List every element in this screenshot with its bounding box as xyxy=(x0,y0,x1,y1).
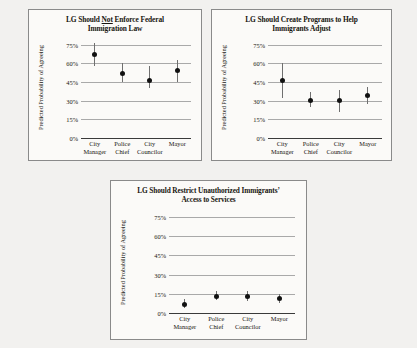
gridline xyxy=(81,138,191,139)
y-axis-tick-label: 30% xyxy=(154,271,166,278)
y-axis-tick-label: 45% xyxy=(66,79,78,86)
x-axis-tick-label: CityCouncilor xyxy=(326,140,352,156)
data-point-marker xyxy=(214,294,219,299)
data-point-marker xyxy=(147,78,152,83)
x-axis-tick-label: CityManager xyxy=(271,140,294,156)
y-axis-tick-label: 75% xyxy=(154,213,166,220)
plot-wrapper: Predicted Probability of Agreeing 0%15%3… xyxy=(29,10,201,160)
y-axis-tick-label: 75% xyxy=(66,41,78,48)
data-point-marker xyxy=(120,71,125,76)
y-axis-tick-label: 45% xyxy=(154,252,166,259)
y-axis-tick-label: 15% xyxy=(66,116,78,123)
y-axis-label: Predicted Probability of Agreeing xyxy=(119,221,126,305)
series-predicted-probability xyxy=(169,213,295,313)
y-axis-tick-label: 60% xyxy=(154,233,166,240)
data-point-marker xyxy=(245,294,250,299)
figure-three-panel-dotplot: LG Should Not Enforce Federal Immigratio… xyxy=(0,0,417,348)
x-axis-tick-label: CityManager xyxy=(173,315,196,331)
plot-wrapper: Predicted Probability of Agreeing 0%15%3… xyxy=(111,181,306,339)
data-point-marker xyxy=(337,98,342,103)
data-point-marker xyxy=(175,68,180,73)
data-point-marker xyxy=(365,93,370,98)
x-axis-tick-label: PoliceChief xyxy=(114,140,130,156)
gridline xyxy=(169,313,295,314)
y-axis-tick-label: 15% xyxy=(253,116,265,123)
x-axis-tick-label: Mayor xyxy=(169,140,186,148)
y-axis-tick-label: 0% xyxy=(256,135,265,142)
series-predicted-probability xyxy=(81,41,191,138)
y-axis-tick-label: 15% xyxy=(154,290,166,297)
data-point-marker xyxy=(92,52,97,57)
y-axis-label: Predicted Probability of Agreeing xyxy=(37,46,44,130)
data-point-marker xyxy=(308,98,313,103)
panel-not-enforce: LG Should Not Enforce Federal Immigratio… xyxy=(28,9,202,161)
gridline xyxy=(268,138,382,139)
confidence-interval-bar xyxy=(149,66,150,88)
y-axis-label: Predicted Probability of Agreeing xyxy=(220,46,227,130)
x-axis-tick-label: PoliceChief xyxy=(208,315,224,331)
data-point-marker xyxy=(182,302,187,307)
y-axis-tick-label: 75% xyxy=(253,41,265,48)
series-predicted-probability xyxy=(268,41,382,138)
data-point-marker xyxy=(277,296,282,301)
panel-create-programs: LG Should Create Programs to Help Immigr… xyxy=(211,9,392,161)
plot-area: 0%15%30%45%60%75%CityManagerPoliceChiefC… xyxy=(169,213,295,313)
y-axis-tick-label: 60% xyxy=(253,60,265,67)
x-axis-tick-label: CityManager xyxy=(83,140,106,156)
x-axis-tick-label: Mayor xyxy=(359,140,376,148)
x-axis-labels: CityManagerPoliceChiefCityCouncilorMayor xyxy=(268,140,382,160)
x-axis-tick-label: CityCouncilor xyxy=(235,315,261,331)
plot-wrapper: Predicted Probability of Agreeing 0%15%3… xyxy=(212,10,391,160)
x-axis-tick-label: CityCouncilor xyxy=(137,140,163,156)
x-axis-tick-label: Mayor xyxy=(271,315,288,323)
x-axis-tick-label: PoliceChief xyxy=(303,140,319,156)
y-axis-tick-label: 60% xyxy=(66,60,78,67)
y-axis-tick-label: 0% xyxy=(157,310,166,317)
y-axis-tick-label: 30% xyxy=(253,97,265,104)
plot-area: 0%15%30%45%60%75%CityManagerPoliceChiefC… xyxy=(268,41,382,138)
x-axis-labels: CityManagerPoliceChiefCityCouncilorMayor xyxy=(81,140,191,160)
panel-restrict-services: LG Should Restrict Unauthorized Immigran… xyxy=(110,180,307,340)
y-axis-tick-label: 30% xyxy=(66,97,78,104)
plot-area: 0%15%30%45%60%75%CityManagerPoliceChiefC… xyxy=(81,41,191,138)
y-axis-tick-label: 0% xyxy=(69,135,78,142)
data-point-marker xyxy=(280,78,285,83)
y-axis-tick-label: 45% xyxy=(253,79,265,86)
x-axis-labels: CityManagerPoliceChiefCityCouncilorMayor xyxy=(169,315,295,335)
